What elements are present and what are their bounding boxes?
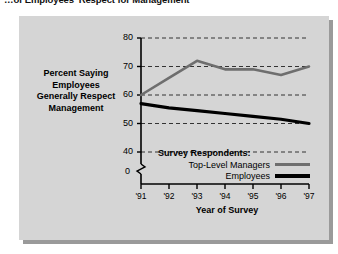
- x-axis-tick-label: '91: [130, 191, 152, 201]
- series-line: [141, 61, 309, 95]
- legend-item: Top-Level Managers: [150, 159, 310, 170]
- legend-title: Survey Respondents:: [150, 148, 310, 158]
- legend-items: Top-Level ManagersEmployees: [150, 159, 310, 181]
- legend-item-swatch: [275, 174, 310, 178]
- legend-item-label: Employees: [225, 171, 270, 181]
- chart-figure: …of Employees' Respect for Management Pe…: [0, 0, 338, 254]
- y-axis-tick-label: 60: [115, 89, 133, 99]
- x-axis-tick-label: '97: [298, 191, 320, 201]
- y-axis-tick-label: 80: [115, 32, 133, 42]
- axis-break-icon: [137, 164, 145, 174]
- series-line: [141, 104, 309, 124]
- figure-title: …of Employees' Respect for Management: [4, 0, 334, 5]
- x-axis-title: Year of Survey: [152, 205, 302, 215]
- axis-origin-label: 0: [112, 166, 130, 176]
- x-axis-tick-label: '92: [158, 191, 180, 201]
- y-axis-caption-line-1: Percent Saying: [24, 68, 128, 80]
- y-axis-caption-line-3: Generally Respect: [24, 91, 128, 103]
- y-axis-tick-label: 40: [115, 146, 133, 156]
- x-axis-tick-label: '96: [270, 191, 292, 201]
- x-axis-tick-label: '93: [186, 191, 208, 201]
- y-axis-caption-line-2: Employees: [24, 80, 128, 92]
- legend-item-label: Top-Level Managers: [188, 160, 270, 170]
- y-axis-tick-label: 50: [115, 118, 133, 128]
- legend: Survey Respondents: Top-Level ManagersEm…: [150, 148, 310, 181]
- y-axis-caption-line-4: Management: [24, 103, 128, 115]
- x-axis-tick-label: '95: [242, 191, 264, 201]
- legend-item: Employees: [150, 170, 310, 181]
- legend-item-swatch: [275, 163, 310, 166]
- x-axis-tick-label: '94: [214, 191, 236, 201]
- y-axis-tick-label: 70: [115, 61, 133, 71]
- y-axis-caption: Percent Saying Employees Generally Respe…: [24, 68, 128, 114]
